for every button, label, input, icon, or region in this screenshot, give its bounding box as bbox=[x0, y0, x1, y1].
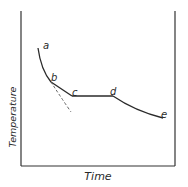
label-a: a bbox=[43, 40, 49, 51]
segment-b-c bbox=[51, 82, 72, 96]
x-axis-label: Time bbox=[84, 170, 111, 183]
segment-d-e bbox=[113, 96, 163, 118]
label-d: d bbox=[110, 86, 117, 97]
dashed-extrapolation bbox=[51, 82, 71, 112]
segment-a-b bbox=[38, 48, 51, 82]
cooling-curve-diagram: a b c d e Time Temperature bbox=[0, 0, 188, 187]
y-axis-label: Temperature bbox=[7, 86, 18, 147]
label-b: b bbox=[51, 72, 57, 83]
label-c: c bbox=[72, 87, 78, 98]
label-e: e bbox=[161, 109, 167, 120]
